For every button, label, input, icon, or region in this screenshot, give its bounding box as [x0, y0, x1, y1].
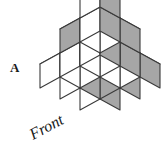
isometric-cube-stack-drawing: Front [0, 0, 166, 154]
cube-left-face [40, 53, 60, 88]
cube-right-face [140, 53, 160, 88]
figure-panel: A Front [0, 0, 166, 154]
cube-group [40, 0, 160, 110]
front-direction-label: Front [26, 111, 67, 144]
